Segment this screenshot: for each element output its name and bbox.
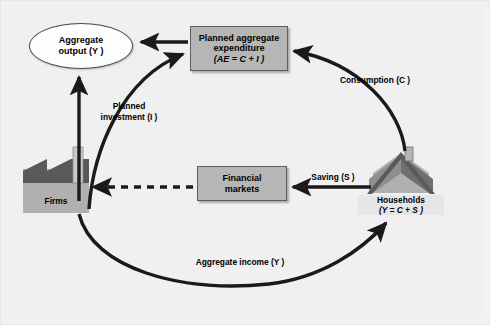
aggregate-output-line2: output (Y ) xyxy=(59,46,104,56)
node-households-label[interactable]: Households (Y = C + S ) xyxy=(358,195,444,215)
consumption-text: Consumption (C ) xyxy=(340,75,410,85)
node-aggregate-output[interactable]: Aggregate output (Y ) xyxy=(29,23,133,69)
planned-investment-line1: Planned xyxy=(113,101,146,111)
financial-markets-line1: Financial xyxy=(222,173,261,183)
aggregate-income-text: Aggregate income (Y ) xyxy=(196,257,285,267)
households-line1: Households xyxy=(377,195,425,205)
planned-ae-line1: Planned aggregate xyxy=(199,33,280,43)
edge-aggregate-income xyxy=(79,214,386,286)
planned-investment-line2: investment (I ) xyxy=(101,112,158,122)
aggregate-output-line1: Aggregate xyxy=(59,35,104,45)
node-firms-label[interactable]: Firms xyxy=(23,196,89,206)
house-icon xyxy=(367,147,435,194)
financial-markets-line2: markets xyxy=(225,184,260,194)
node-planned-aggregate-expenditure[interactable]: Planned aggregate expenditure (AE = C + … xyxy=(190,26,288,71)
edge-label-planned-investment: Planned investment (I ) xyxy=(83,101,175,122)
edge-label-saving: Saving (S ) xyxy=(297,172,369,183)
saving-text: Saving (S ) xyxy=(311,172,354,182)
households-line2: (Y = C + S ) xyxy=(379,205,423,215)
node-financial-markets[interactable]: Financial markets xyxy=(197,166,287,201)
firms-label-text: Firms xyxy=(45,196,68,206)
edge-consumption xyxy=(294,51,405,151)
edge-label-aggregate-income: Aggregate income (Y ) xyxy=(179,257,301,268)
planned-ae-line3: (AE = C + I ) xyxy=(214,54,265,64)
planned-ae-line2: expenditure xyxy=(213,43,264,53)
edge-label-consumption: Consumption (C ) xyxy=(323,75,427,86)
circular-flow-diagram: Aggregate output (Y ) Planned aggregate … xyxy=(0,0,490,325)
